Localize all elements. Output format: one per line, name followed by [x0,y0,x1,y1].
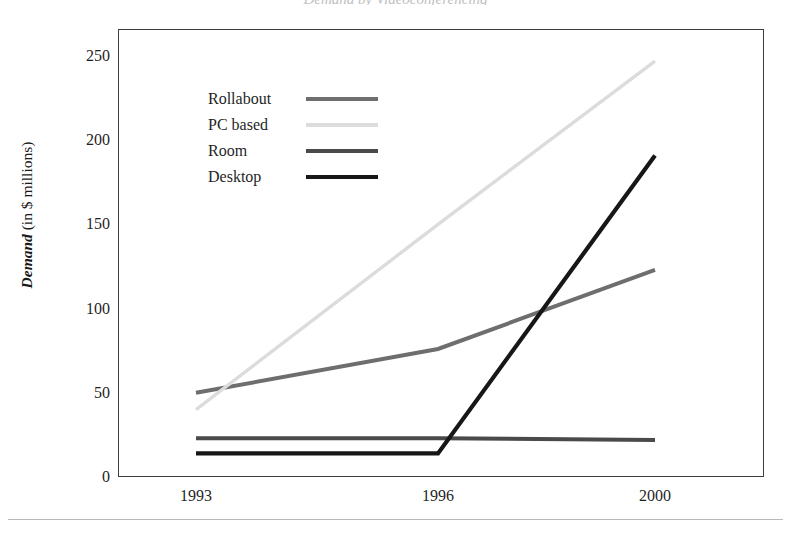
y-axis-tick-0: 0 [64,469,110,485]
legend-item-rollabout: Rollabout [208,86,388,112]
legend-label: Room [208,138,247,164]
legend-label: PC based [208,112,268,138]
y-axis-tick-50: 50 [64,385,110,401]
y-axis-tick-200: 200 [64,132,110,148]
legend-item-room: Room [208,138,388,164]
footer-rule [8,519,783,520]
y-axis-tick-labels: 250200150100500 [48,0,110,533]
y-axis-title: Demand (in $ millions) [14,90,40,340]
legend-swatch [306,149,378,153]
legend-swatch [306,123,378,127]
y-axis-title-emphasis: Demand [18,234,35,288]
legend-item-desktop: Desktop [208,164,388,190]
legend-label: Desktop [208,164,261,190]
y-axis-tick-250: 250 [64,48,110,64]
chart-legend: RollaboutPC basedRoomDesktop [208,86,388,190]
legend-swatch [306,97,378,101]
chart-title: Demand by Videoconferencing [0,0,791,5]
x-axis-tick-1993: 1993 [136,487,256,505]
legend-item-pc-based: PC based [208,112,388,138]
y-axis-tick-150: 150 [64,216,110,232]
legend-swatch [306,175,378,179]
legend-label: Rollabout [208,86,271,112]
y-axis-title-unit: (in $ millions) [18,142,35,235]
x-axis-tick-2000: 2000 [595,487,715,505]
y-axis-tick-100: 100 [64,301,110,317]
x-axis-tick-1996: 1996 [378,487,498,505]
